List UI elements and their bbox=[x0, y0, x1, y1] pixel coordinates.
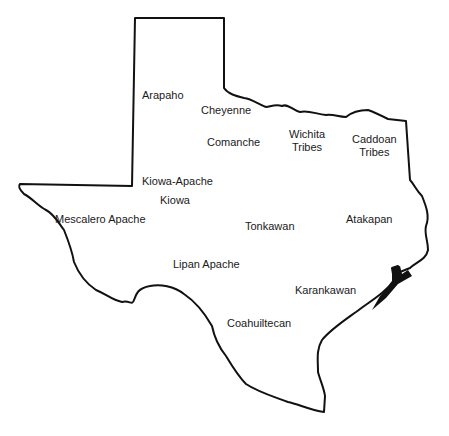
galveston-bay bbox=[372, 266, 412, 310]
tribe-label-atakapan: Atakapan bbox=[346, 213, 392, 226]
tribe-label-kiowa-apache: Kiowa-Apache bbox=[142, 175, 213, 188]
tribe-label-cheyenne: Cheyenne bbox=[201, 104, 251, 117]
tribe-label-tonkawan: Tonkawan bbox=[245, 220, 295, 233]
tribe-label-lipan-apache: Lipan Apache bbox=[173, 258, 240, 271]
tribe-label-arapaho: Arapaho bbox=[142, 89, 184, 102]
tribe-label-coahuiltecan: Coahuiltecan bbox=[227, 317, 291, 330]
tribe-label-karankawan: Karankawan bbox=[295, 284, 356, 297]
tribe-label-kiowa: Kiowa bbox=[160, 194, 190, 207]
tribe-label-wichita: Wichita Tribes bbox=[289, 128, 325, 154]
tribe-label-comanche: Comanche bbox=[207, 136, 260, 149]
tribe-label-mescalero-apache: Mescalero Apache bbox=[55, 213, 146, 226]
tribe-label-caddoan: Caddoan Tribes bbox=[352, 133, 397, 159]
